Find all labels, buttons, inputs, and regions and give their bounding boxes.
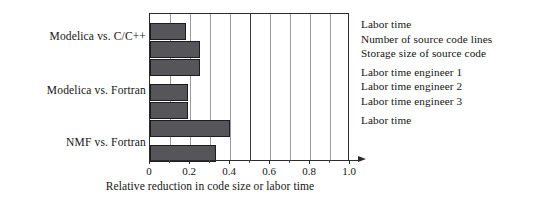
x-tick [309,160,310,164]
x-tick-minor [289,160,290,163]
x-tick-minor [329,160,330,163]
x-tick [149,160,150,164]
bar [150,84,188,101]
gridline-0.5 [250,14,251,160]
bar [150,23,186,40]
x-axis-arrow-icon [358,156,366,162]
legend-item: Labor time [361,113,533,128]
bar [150,120,230,137]
x-axis-title: Relative reduction in code size or labor… [0,180,420,192]
x-tick-minor [209,160,210,163]
x-tick [269,160,270,164]
bar [150,41,200,58]
category-label-modelica-vs-c: Modelica vs. C/C++ [50,30,147,43]
legend-item: Labor time engineer 2 [361,79,533,94]
x-tick-label: 0.8 [289,165,329,177]
gridline-0.4 [230,14,231,160]
legend-item: Labor time [361,17,533,32]
x-tick [189,160,190,164]
x-tick-label: 1.0 [329,165,369,177]
x-tick-label: 0.4 [209,165,249,177]
plot-area [149,13,349,160]
legend-item: Labor time engineer 3 [361,94,533,109]
bar [150,102,188,119]
x-tick-label: 0 [129,165,169,177]
gridline-0.9 [330,14,331,160]
bar [150,59,200,76]
x-tick-minor [249,160,250,163]
gridline-0.6 [270,14,271,160]
category-label-modelica-vs-fortran: Modelica vs. Fortran [47,84,146,97]
legend-item: Number of source code lines [361,32,533,47]
x-tick [229,160,230,164]
gridline-0.7 [290,14,291,160]
gridline-0.8 [310,14,311,160]
category-label-nmf-vs-fortran: NMF vs. Fortran [66,136,146,149]
x-tick [349,160,350,164]
gridline-0.2 [190,14,191,160]
bar-chart-figure: Modelica vs. C/C++ Modelica vs. Fortran … [0,0,534,197]
x-tick-label: 0.2 [169,165,209,177]
x-tick-minor [169,160,170,163]
legend-list: Labor timeNumber of source code linesSto… [361,17,533,127]
gridline-0.3 [210,14,211,160]
x-tick-label: 0.6 [249,165,289,177]
legend-item: Labor time engineer 1 [361,65,533,80]
legend-item: Storage size of source code [361,46,533,61]
